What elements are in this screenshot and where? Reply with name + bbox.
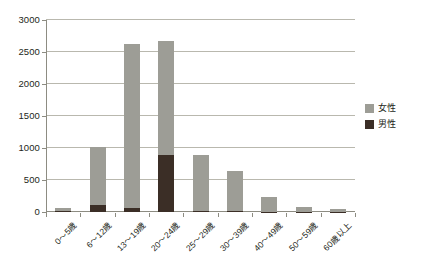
x-axis-labels: 0〜5歳6〜12歳13〜19歳20〜24歳25〜29歳30〜39歳40〜49歳5… [0, 0, 424, 274]
legend-swatch-icon [365, 120, 374, 129]
chart-legend: 女性男性 [365, 103, 421, 135]
legend-label: 女性 [378, 104, 396, 113]
bar-chart: 050010001500200025003000 0〜5歳6〜12歳13〜19歳… [0, 0, 424, 274]
legend-label: 男性 [378, 120, 396, 129]
legend-item[interactable]: 男性 [365, 119, 421, 129]
legend-item[interactable]: 女性 [365, 103, 421, 113]
legend-swatch-icon [365, 104, 374, 113]
